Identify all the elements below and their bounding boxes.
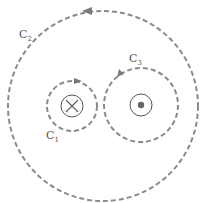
label-c2: C2	[19, 28, 32, 43]
arrow-c1-icon	[74, 78, 82, 84]
label-c3: C3	[129, 52, 142, 67]
current-out-of-page-icon	[130, 94, 152, 116]
amperian-loops-diagram: C2 C1 C3	[0, 0, 203, 203]
label-c1: C1	[46, 129, 59, 144]
current-into-page-icon	[61, 95, 83, 117]
arrow-c3-icon	[117, 69, 124, 77]
loop-c2	[8, 11, 198, 201]
